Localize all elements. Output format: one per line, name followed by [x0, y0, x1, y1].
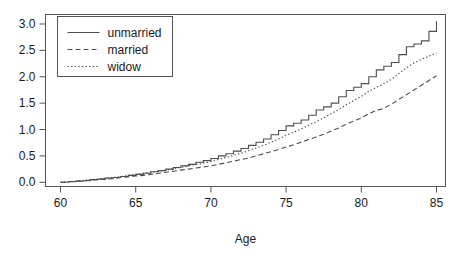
- y-tick-label: 1.5: [19, 96, 36, 110]
- y-tick-label: 1.0: [19, 123, 36, 137]
- x-tick-label: 80: [355, 196, 369, 210]
- x-tick-label: 85: [430, 196, 444, 210]
- y-tick-label: 0.0: [19, 175, 36, 189]
- legend-label-unmarried: unmarried: [108, 26, 162, 40]
- x-tick-label: 75: [279, 196, 293, 210]
- y-tick-label: 3.0: [19, 17, 36, 31]
- cumulative-hazard-plot: 6065707580850.00.51.01.52.02.53.0Ageunma…: [0, 0, 463, 256]
- x-axis-title: Age: [235, 232, 257, 246]
- x-tick-label: 65: [129, 196, 143, 210]
- y-tick-label: 0.5: [19, 149, 36, 163]
- x-tick-label: 70: [204, 196, 218, 210]
- legend-label-widow: widow: [107, 60, 142, 74]
- y-tick-label: 2.0: [19, 70, 36, 84]
- legend-label-married: married: [108, 43, 149, 57]
- x-tick-label: 60: [54, 196, 68, 210]
- series-line-married: [61, 76, 437, 183]
- y-tick-label: 2.5: [19, 43, 36, 57]
- chart-container: 6065707580850.00.51.01.52.02.53.0Ageunma…: [0, 0, 463, 256]
